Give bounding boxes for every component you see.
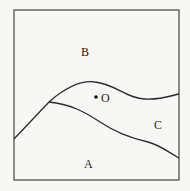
frame bbox=[14, 10, 179, 180]
label-region-c: C bbox=[154, 118, 162, 132]
point-o-dot bbox=[94, 95, 98, 99]
diagram-canvas: B O C A bbox=[0, 0, 190, 191]
label-region-a: A bbox=[84, 157, 93, 171]
label-point-o: O bbox=[101, 91, 110, 105]
label-region-b: B bbox=[81, 45, 89, 59]
